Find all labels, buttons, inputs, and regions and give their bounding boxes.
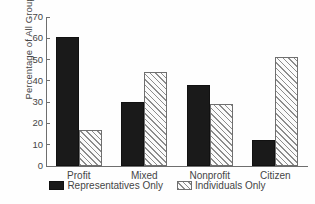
legend-item-representatives-only: Representatives Only	[49, 180, 163, 191]
y-axis-tick-label: 50	[32, 55, 43, 65]
y-axis-tick: 50	[6, 55, 52, 65]
legend-swatch-icon	[49, 181, 64, 190]
y-axis-tick-mark	[46, 59, 50, 60]
bar-nonprofit-individuals-only	[210, 104, 233, 166]
bar-profit-individuals-only	[79, 130, 102, 166]
chart-legend: Representatives OnlyIndividuals Only	[0, 180, 315, 191]
bar-mixed-representatives-only	[121, 102, 144, 166]
y-axis-tick-label: 20	[32, 118, 43, 128]
plot-area: 010203040506070 ProfitMixedNonprofitCiti…	[46, 17, 308, 166]
y-axis-tick-mark	[46, 102, 50, 103]
y-axis-tick-mark	[46, 144, 50, 145]
y-axis-tick-label: 30	[32, 97, 43, 107]
bar-citizen-individuals-only	[275, 57, 298, 166]
y-axis-tick: 10	[6, 140, 52, 150]
bar-mixed-individuals-only	[144, 72, 167, 166]
y-axis-tick: 70	[6, 12, 52, 22]
y-axis-tick-mark	[46, 123, 50, 124]
bar-citizen-representatives-only	[252, 140, 275, 166]
bar-nonprofit-representatives-only	[187, 85, 210, 166]
y-axis-tick: 60	[6, 33, 52, 43]
legend-swatch-icon	[177, 181, 192, 190]
y-axis-tick-label: 40	[32, 76, 43, 86]
y-axis-tick-mark	[46, 166, 50, 167]
y-axis-tick: 20	[6, 118, 52, 128]
legend-label: Individuals Only	[195, 180, 266, 191]
legend-item-individuals-only: Individuals Only	[177, 180, 266, 191]
y-axis-tick-mark	[46, 80, 50, 81]
y-axis-tick-mark	[46, 17, 50, 18]
x-axis-line	[46, 166, 308, 167]
y-axis-tick: 30	[6, 97, 52, 107]
bar-profit-representatives-only	[56, 37, 79, 166]
y-axis-tick-mark	[46, 38, 50, 39]
legend-label: Representatives Only	[67, 180, 163, 191]
y-axis-tick: 40	[6, 76, 52, 86]
bar-chart-figure: Percentage of All Groups 010203040506070…	[0, 0, 315, 204]
y-axis-tick-label: 60	[32, 33, 43, 43]
y-axis-tick-label: 0	[38, 161, 43, 171]
y-axis-tick-label: 10	[32, 140, 43, 150]
y-axis-tick: 0	[6, 161, 52, 171]
y-axis-tick-label: 70	[32, 12, 43, 22]
